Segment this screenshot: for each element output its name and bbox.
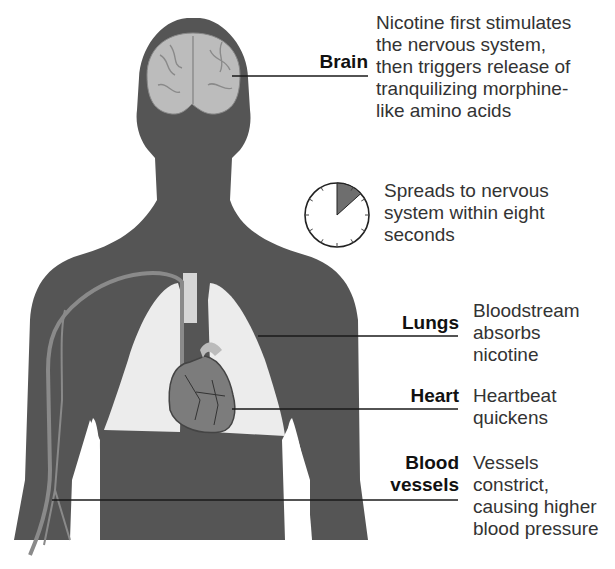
lungs-description: Bloodstream absorbs nicotine [473, 300, 615, 366]
lungs-desc-line: absorbs [473, 322, 615, 344]
clock-icon [305, 183, 369, 247]
timer-description: Spreads to nervous system within eight s… [384, 180, 614, 246]
heart-label: Heart [380, 385, 459, 407]
lungs-label: Lungs [380, 312, 459, 334]
timer-desc-line: system within eight [384, 202, 614, 224]
blood-vessels-desc-line: causing higher [473, 496, 615, 518]
nicotine-body-diagram: Brain Nicotine first stimulates the nerv… [0, 0, 615, 569]
brain-description: Nicotine first stimulates the nervous sy… [376, 12, 615, 122]
timer-desc-line: Spreads to nervous [384, 180, 614, 202]
brain-desc-line: then triggers release of [376, 56, 615, 78]
heart-description: Heartbeat quickens [473, 385, 615, 429]
brain-desc-line: tranquilizing morphine- [376, 78, 615, 100]
blood-vessels-desc-line: blood pressure [473, 518, 615, 540]
timer-desc-line: seconds [384, 224, 614, 246]
trachea [183, 273, 197, 323]
heart-desc-line: Heartbeat [473, 385, 615, 407]
heart-desc-line: quickens [473, 407, 615, 429]
blood-vessels-label: Blood vessels [360, 452, 459, 496]
brain-desc-line: Nicotine first stimulates [376, 12, 615, 34]
lungs-desc-line: nicotine [473, 344, 615, 366]
blood-vessels-desc-line: constrict, [473, 474, 615, 496]
blood-vessels-label-line: vessels [360, 474, 459, 496]
brain-label: Brain [300, 51, 368, 73]
blood-vessels-label-line: Blood [360, 452, 459, 474]
brain-desc-line: like amino acids [376, 100, 615, 122]
blood-vessels-description: Vessels constrict, causing higher blood … [473, 452, 615, 540]
blood-vessels-desc-line: Vessels [473, 452, 615, 474]
brain-desc-line: the nervous system, [376, 34, 615, 56]
lungs-desc-line: Bloodstream [473, 300, 615, 322]
